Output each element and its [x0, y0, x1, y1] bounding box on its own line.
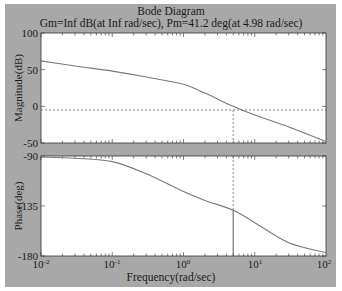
ytick-neg50: -50 — [23, 137, 38, 149]
svg-text:10-2: 10-2 — [33, 258, 50, 270]
ytick-100: 100 — [22, 27, 39, 39]
bode-plot: 100 50 0 -50 -90 -135 -180 10-2 10-1 100… — [0, 0, 342, 291]
ytick-neg135: -135 — [18, 200, 39, 212]
svg-text:102: 102 — [317, 258, 332, 270]
svg-text:100: 100 — [176, 258, 191, 270]
ytick-0: 0 — [33, 100, 39, 112]
magnitude-axes — [41, 33, 326, 143]
magnitude-ytick-labels: 100 50 0 -50 — [22, 27, 39, 149]
phase-ytick-labels: -90 -135 -180 — [18, 150, 39, 262]
svg-text:101: 101 — [248, 258, 263, 270]
ytick-50: 50 — [27, 64, 39, 76]
xtick-labels: 10-2 10-1 100 101 102 — [33, 258, 332, 270]
phase-axes — [41, 156, 326, 256]
ytick-neg90: -90 — [23, 150, 38, 162]
svg-text:10-1: 10-1 — [104, 258, 121, 270]
